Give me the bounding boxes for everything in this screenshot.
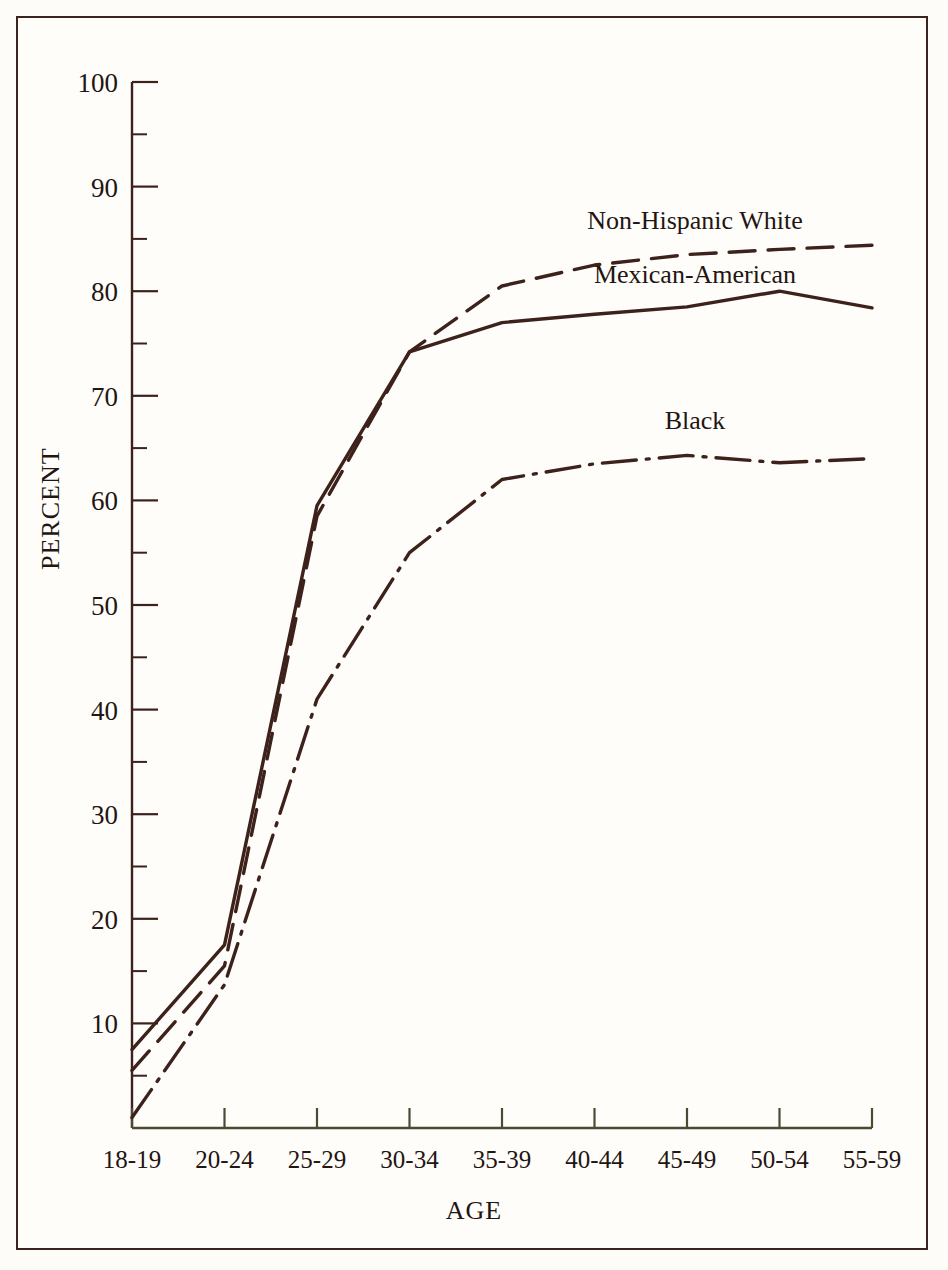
y-tick-label: 30 [91, 800, 118, 830]
series-label-non-hispanic-white: Non-Hispanic White [587, 206, 802, 235]
x-tick-label: 55-59 [843, 1146, 901, 1173]
x-tick-label: 18-19 [103, 1146, 161, 1173]
y-tick-label: 50 [91, 591, 118, 621]
series-annotations: Non-Hispanic WhiteMexican-AmericanBlack [587, 206, 802, 436]
x-tick-label: 45-49 [658, 1146, 716, 1173]
axes-group [132, 82, 872, 1128]
series-label-black: Black [665, 406, 726, 435]
y-tick-label: 100 [78, 68, 119, 98]
series-line-non-hispanic-white [132, 245, 872, 1070]
y-tick-label: 60 [91, 486, 118, 516]
series-line-black [132, 455, 872, 1117]
y-tick-label: 40 [91, 696, 118, 726]
y-tick-label: 80 [91, 277, 118, 307]
y-tick-label: 70 [91, 382, 118, 412]
x-axis-title: AGE [0, 1196, 948, 1226]
line-chart-plot: 102030405060708090100 18-1920-2425-2930-… [0, 0, 948, 1270]
x-tick-label: 20-24 [195, 1146, 254, 1173]
y-axis-ticks: 102030405060708090100 [78, 68, 159, 1076]
x-tick-label: 50-54 [750, 1146, 809, 1173]
x-tick-label: 40-44 [565, 1146, 624, 1173]
figure-canvas: 102030405060708090100 18-1920-2425-2930-… [0, 0, 948, 1270]
x-tick-label: 30-34 [380, 1146, 439, 1173]
x-axis-ticks: 18-1920-2425-2930-3435-3940-4445-4950-54… [103, 1108, 901, 1173]
data-series-group [132, 245, 872, 1117]
y-axis-title: PERCENT [36, 447, 66, 570]
series-label-mexican-american: Mexican-American [594, 260, 796, 289]
x-tick-label: 35-39 [473, 1146, 531, 1173]
series-line-mexican-american [132, 291, 872, 1049]
x-tick-label: 25-29 [288, 1146, 346, 1173]
y-tick-label: 90 [91, 173, 118, 203]
y-tick-label: 10 [91, 1009, 118, 1039]
y-tick-label: 20 [91, 905, 118, 935]
